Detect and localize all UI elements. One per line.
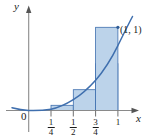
origin-label: 0: [21, 111, 27, 122]
x-tick-label-one: 1: [116, 118, 121, 127]
x-tick-label-three-quarters: 3 4: [92, 118, 99, 138]
endpoint-label: (1, 1): [120, 25, 142, 35]
rectangle-2: [73, 90, 95, 111]
y-axis-label: y: [14, 1, 19, 12]
y-axis-arrow: [26, 6, 31, 14]
x-tick-value: 1: [116, 118, 121, 127]
rectangle-4-body: [96, 27, 118, 110]
x-axis-label: x: [136, 113, 141, 124]
x-tick-denominator: 4: [48, 128, 55, 137]
x-tick-label-one-quarter: 1 4: [48, 118, 55, 138]
x-tick-denominator: 2: [70, 128, 77, 137]
riemann-sum-figure: y x 0 (1, 1) 1 4 1 2 3 4 1: [0, 0, 147, 139]
x-tick-denominator: 4: [92, 128, 99, 137]
x-axis-ticks: [51, 111, 118, 117]
x-tick-label-one-half: 1 2: [70, 118, 77, 138]
